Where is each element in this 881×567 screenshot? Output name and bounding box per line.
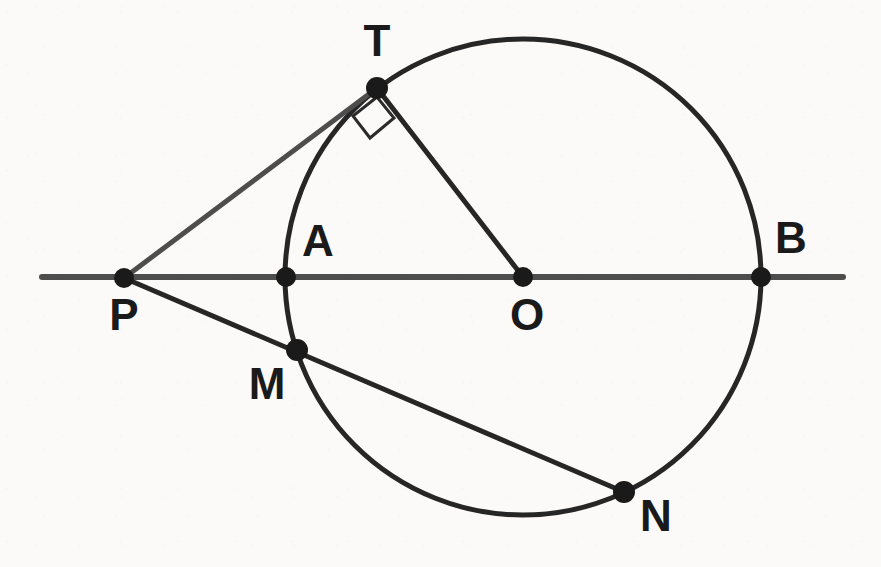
vertex-dot-O — [513, 267, 533, 287]
vertex-dot-T — [366, 77, 388, 99]
point-label-M: M — [249, 359, 286, 408]
point-label-P: P — [109, 290, 138, 339]
diagram-canvas: P T A O B M N — [0, 0, 881, 567]
geometry-figure: P T A O B M N — [0, 0, 881, 567]
vertex-dot-M — [286, 339, 308, 361]
point-label-A: A — [302, 216, 334, 265]
tangent-segment-PT — [124, 88, 377, 278]
radius-segment-TO — [377, 88, 523, 277]
point-label-N: N — [640, 491, 672, 540]
point-label-B: B — [775, 213, 807, 262]
point-label-O: O — [510, 290, 544, 339]
vertex-dot-B — [751, 267, 771, 287]
point-label-T: T — [364, 16, 391, 65]
vertex-dot-P — [114, 268, 134, 288]
vertex-dot-A — [276, 267, 296, 287]
vertex-dot-N — [613, 481, 635, 503]
